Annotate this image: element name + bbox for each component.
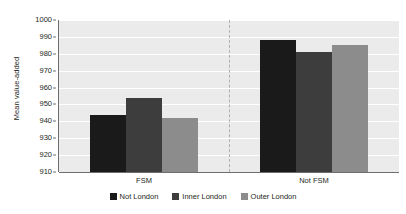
bar — [332, 45, 368, 172]
legend-item: Inner London — [172, 192, 226, 201]
y-axis-tick-label: 950 — [39, 101, 52, 109]
y-axis-tick-mark — [53, 121, 56, 122]
y-axis-tick-mark — [53, 155, 56, 156]
y-axis-tick-mark — [53, 138, 56, 139]
legend-item: Not London — [110, 192, 159, 201]
y-axis-tick-label: 990 — [39, 33, 52, 41]
legend-swatch-icon — [110, 193, 117, 200]
y-axis-tick-mark — [53, 70, 56, 71]
legend-swatch-icon — [172, 193, 179, 200]
y-axis-tick-label: 960 — [39, 84, 52, 92]
bar — [126, 98, 162, 172]
legend-swatch-icon — [241, 193, 248, 200]
bar — [260, 40, 296, 172]
legend-label: Inner London — [182, 192, 226, 201]
y-axis-tick-label: 970 — [39, 67, 52, 75]
legend-label: Outer London — [251, 192, 297, 201]
group-divider — [229, 20, 230, 172]
y-axis-tick-label: 980 — [39, 50, 52, 58]
bar — [162, 118, 198, 172]
y-axis-tick-mark — [53, 20, 56, 21]
plot-area — [59, 20, 399, 172]
x-axis-tick-label: Not FSM — [299, 176, 329, 185]
y-axis-tick-mark — [53, 36, 56, 37]
y-axis-tick-label: 1000 — [35, 16, 52, 24]
y-axis-tick-label: 910 — [39, 168, 52, 176]
bar — [296, 52, 332, 172]
y-axis-tick-mark — [53, 53, 56, 54]
y-axis-tick-label: 930 — [39, 134, 52, 142]
chart-legend: Not LondonInner LondonOuter London — [0, 192, 406, 201]
bar — [90, 115, 126, 172]
y-axis-title-label: Mean value-added — [13, 56, 22, 120]
x-axis-line — [59, 172, 399, 173]
legend-item: Outer London — [241, 192, 297, 201]
y-axis-tick-mark — [53, 172, 56, 173]
bar-chart: Mean value-added 10009909809709609509409… — [0, 0, 406, 214]
y-axis-tick-mark — [53, 104, 56, 105]
y-axis-tick-mark — [53, 87, 56, 88]
y-axis-tick-label: 940 — [39, 118, 52, 126]
legend-label: Not London — [120, 192, 159, 201]
x-axis-tick-label: FSM — [136, 176, 152, 185]
y-axis-tick-labels: 1000990980970960950940930920910 — [26, 0, 56, 176]
y-axis-tick-label: 920 — [39, 151, 52, 159]
y-axis-title: Mean value-added — [10, 0, 24, 176]
